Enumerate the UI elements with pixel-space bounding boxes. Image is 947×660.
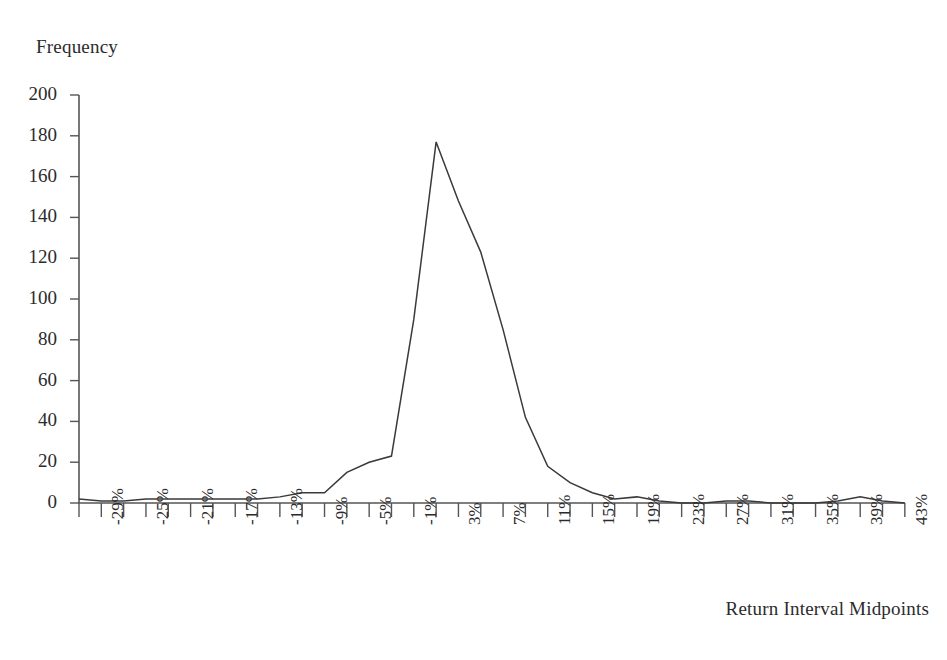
axis-lines: [79, 95, 905, 503]
x-tick-label: 23%: [689, 494, 709, 525]
x-tick-label: 35%: [823, 494, 843, 525]
x-tick-label: 27%: [733, 494, 753, 525]
x-tick-label: -25%: [153, 488, 173, 525]
x-tick-label: 3%: [465, 502, 485, 525]
x-tick-label: -29%: [108, 488, 128, 525]
y-axis-ticks: [70, 95, 79, 503]
x-tick-label: -9%: [332, 497, 352, 525]
x-tick-label: 19%: [644, 494, 664, 525]
plot-area: [0, 0, 947, 660]
x-tick-label: -13%: [287, 488, 307, 525]
x-tick-label: -21%: [198, 488, 218, 525]
x-tick-label: -5%: [376, 497, 396, 525]
x-tick-label: 7%: [510, 502, 530, 525]
x-tick-label: 43%: [912, 494, 932, 525]
x-tick-label: 39%: [867, 494, 887, 525]
x-axis-title: Return Interval Midpoints: [726, 598, 929, 620]
histogram-frequency-polygon-chart: Frequency 020406080100120140160180200 -2…: [0, 0, 947, 660]
x-tick-label: 15%: [599, 494, 619, 525]
x-tick-label: -1%: [421, 497, 441, 525]
x-tick-label: 31%: [778, 494, 798, 525]
axes: [79, 95, 905, 503]
frequency-series-line: [79, 142, 905, 503]
x-tick-label: -17%: [242, 488, 262, 525]
x-tick-label: 11%: [555, 494, 575, 525]
